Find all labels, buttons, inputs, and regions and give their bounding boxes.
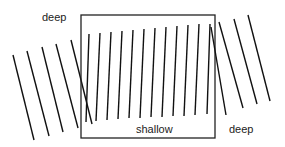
label-deep-left: deep xyxy=(42,12,66,23)
label-shallow: shallow xyxy=(136,124,173,135)
label-deep-right: deep xyxy=(229,124,253,135)
shallow-lines xyxy=(86,24,210,122)
left-deep-lines xyxy=(13,40,92,140)
right-deep-lines xyxy=(211,15,270,115)
shallow-box xyxy=(81,15,215,138)
